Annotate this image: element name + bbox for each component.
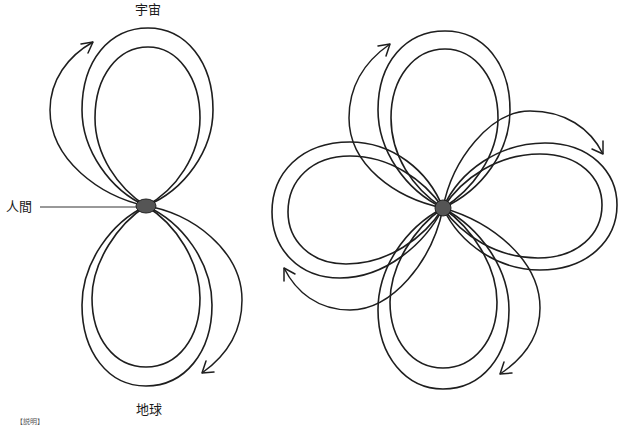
right-center-node	[435, 200, 451, 216]
right-right-outer-loop	[443, 143, 617, 270]
right-top-inner-loop	[391, 49, 498, 208]
label-universe: 宇宙	[135, 3, 161, 16]
right-bottom-arrow-arc	[443, 208, 540, 374]
left-lower-arrow-arc	[146, 206, 242, 373]
left-upper-inner-loop	[95, 47, 200, 206]
right-top-outer-loop	[378, 31, 510, 208]
left-lower-inner-loop	[92, 206, 200, 367]
left-upper-arrow-arc	[50, 42, 146, 206]
right-left-outer-loop	[272, 142, 443, 278]
right-right-inner-loop	[443, 154, 602, 258]
left-upper-outer-loop	[82, 28, 213, 206]
label-human: 人間	[6, 200, 32, 213]
label-earth: 地球	[136, 403, 162, 416]
left-center-node	[136, 199, 156, 213]
right-figure	[272, 31, 617, 389]
left-figure	[40, 28, 242, 386]
right-bottom-inner-loop	[390, 208, 497, 368]
left-lower-outer-loop	[82, 206, 212, 386]
right-bottom-outer-loop	[378, 208, 509, 389]
label-footer-cut: 【説明】	[16, 419, 44, 426]
